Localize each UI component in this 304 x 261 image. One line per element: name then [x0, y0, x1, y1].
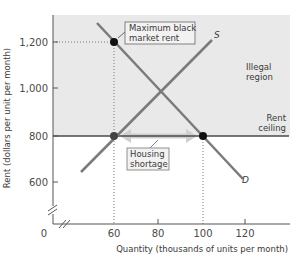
x-tick-60: 60 — [108, 228, 121, 239]
illegal-region-label-1: Illegal — [246, 62, 271, 72]
quantity-demanded-point — [199, 132, 207, 140]
demand-label: D — [242, 175, 249, 185]
black-market-label-2: market rent — [129, 33, 180, 43]
quantity-supplied-point — [110, 132, 118, 140]
x-tick-80: 80 — [152, 228, 165, 239]
illegal-region-label-2: region — [246, 72, 273, 82]
rent-ceiling-label-1: Rent — [267, 113, 287, 123]
housing-shortage-label-2: shortage — [130, 159, 168, 169]
black-market-rent-point — [110, 38, 118, 46]
supply-label: S — [214, 30, 220, 40]
rent-ceiling-chart: 1,200 1,000 800 600 0 60 80 100 120 Quan… — [0, 0, 304, 261]
y-tick-600: 600 — [29, 177, 48, 188]
y-axis-title: Rent (dollars per unit per month) — [2, 48, 12, 188]
y-tick-1200: 1,200 — [19, 37, 48, 48]
housing-shortage-label-1: Housing — [130, 149, 165, 159]
x-axis-title: Quantity (thousands of units per month) — [116, 244, 288, 254]
y-tick-800: 800 — [29, 131, 48, 142]
y-tick-1000: 1,000 — [19, 83, 48, 94]
black-market-label-1: Maximum black — [129, 23, 196, 33]
origin-label: 0 — [41, 228, 47, 239]
x-tick-120: 120 — [235, 228, 254, 239]
rent-ceiling-label-2: ceiling — [258, 123, 286, 133]
x-tick-100: 100 — [193, 228, 212, 239]
